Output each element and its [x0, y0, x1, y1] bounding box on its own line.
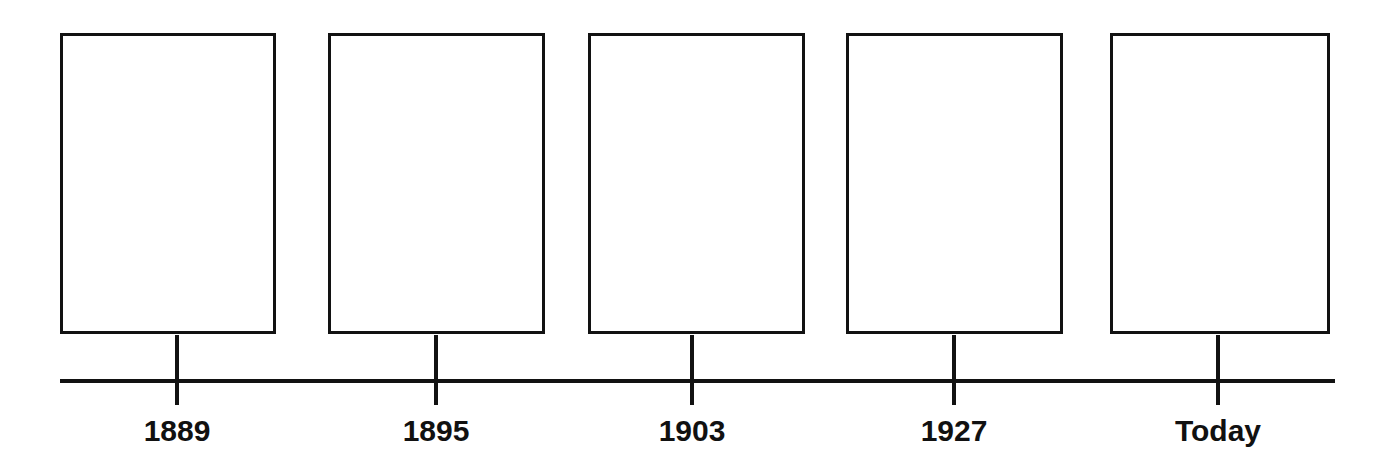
timeline-image-box [588, 33, 805, 334]
timeline-label-1889: 1889 [144, 414, 211, 448]
timeline-tick [175, 335, 179, 405]
timeline-label-1927: 1927 [921, 414, 988, 448]
timeline-tick [1216, 335, 1220, 405]
timeline-label-1895: 1895 [403, 414, 470, 448]
timeline-diagram: 1889189519031927Today [0, 0, 1382, 472]
timeline-tick [690, 335, 694, 405]
timeline-label-1903: 1903 [659, 414, 726, 448]
timeline-axis [60, 379, 1335, 383]
timeline-image-box [328, 33, 545, 334]
timeline-tick [434, 335, 438, 405]
timeline-image-box [1110, 33, 1330, 334]
timeline-image-box [60, 33, 276, 334]
timeline-label-today: Today [1175, 414, 1261, 448]
timeline-tick [952, 335, 956, 405]
timeline-image-box [846, 33, 1063, 334]
